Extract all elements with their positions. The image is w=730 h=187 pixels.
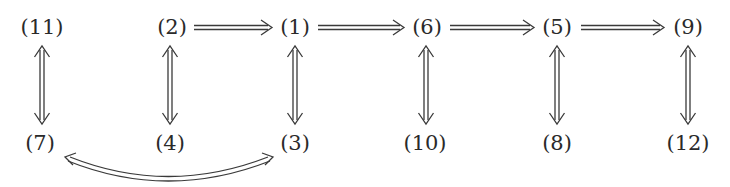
implication-diagram: (11) (2) (1) (6) (5) (9) (7) (4) (3) (10… (0, 0, 730, 187)
iff-5-8 (550, 46, 565, 124)
iff-11-7 (35, 46, 50, 124)
node-11: (11) (20, 17, 63, 38)
node-2: (2) (157, 17, 187, 38)
arrow-5-to-9 (581, 20, 664, 35)
node-9: (9) (673, 17, 703, 38)
node-12: (12) (666, 133, 709, 154)
iff-6-10 (419, 46, 434, 124)
arrow-2-to-1 (194, 20, 272, 35)
node-7: (7) (25, 133, 55, 154)
node-6: (6) (412, 17, 442, 38)
edges-layer (0, 0, 730, 187)
node-3: (3) (280, 133, 310, 154)
node-4: (4) (155, 133, 185, 154)
arrow-1-to-6 (318, 20, 404, 35)
node-8: (8) (542, 133, 572, 154)
iff-9-12 (681, 46, 696, 124)
iff-7-3-curved (65, 153, 273, 181)
arrow-6-to-5 (450, 20, 534, 35)
node-1: (1) (280, 17, 310, 38)
node-10: (10) (403, 133, 446, 154)
iff-1-3 (288, 46, 303, 124)
node-5: (5) (542, 17, 572, 38)
iff-2-4 (163, 46, 178, 124)
